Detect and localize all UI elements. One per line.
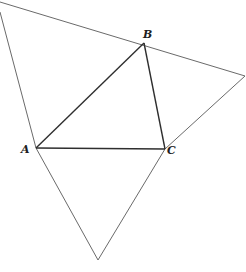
outer-side-left-upper [0, 12, 36, 148]
side-ab [36, 43, 144, 148]
vertex-label-a: A [20, 143, 30, 156]
geometry-figure: A B C [0, 0, 246, 272]
side-ac [36, 148, 165, 149]
outer-side-right-lower [98, 149, 165, 260]
outer-side-right-upper [165, 76, 245, 149]
side-bc [144, 43, 165, 149]
vertex-label-b: B [142, 28, 152, 41]
vertex-label-c: C [167, 144, 176, 157]
outer-side-left-lower [36, 148, 98, 260]
outer-side-top [0, 2, 245, 76]
